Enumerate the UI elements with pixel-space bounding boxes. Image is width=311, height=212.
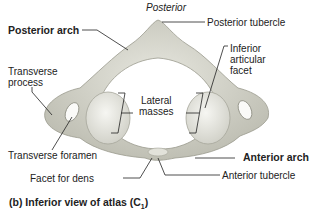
label-posterior-arch: Posterior arch [8, 25, 79, 36]
label-lateral-masses: Lateral masses [139, 95, 173, 117]
label-posterior-tubercle: Posterior tubercle [207, 17, 285, 28]
facet-for-dens [148, 148, 168, 156]
atlas-bone [45, 20, 269, 160]
label-transverse-process: Transverse process [8, 66, 58, 88]
inferior-articular-facet-left [86, 92, 130, 144]
label-facet-for-dens: Facet for dens [30, 173, 94, 184]
label-transverse-foramen: Transverse foramen [8, 150, 97, 161]
label-anterior-arch: Anterior arch [243, 152, 309, 163]
label-inferior-articular-facet: Inferior articular facet [230, 43, 266, 76]
label-anterior-tubercle: Anterior tubercle [222, 170, 295, 181]
orientation-label: Posterior [146, 2, 186, 13]
figure-caption: (b) Inferior view of atlas (C1) [9, 197, 148, 212]
inferior-articular-facet-right [186, 92, 230, 144]
